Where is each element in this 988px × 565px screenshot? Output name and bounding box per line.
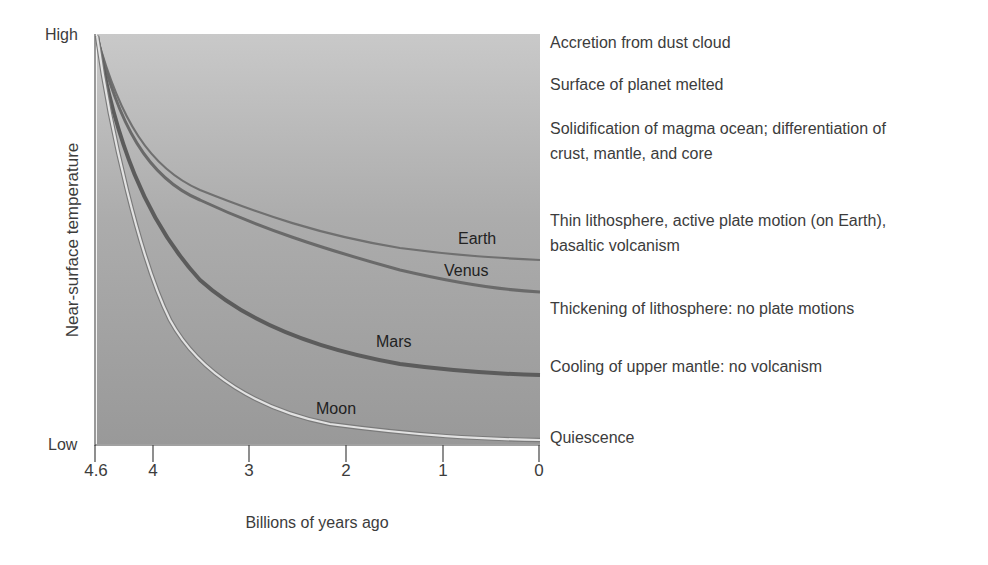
venus-label: Venus [444, 262, 488, 280]
moon-label: Moon [316, 400, 356, 418]
stage-solidification-line1: Solidification of magma ocean; different… [550, 116, 980, 141]
stage-thin-lithosphere-line1: Thin lithosphere, active plate motion (o… [550, 208, 980, 233]
stage-solidification: Solidification of magma ocean; different… [550, 116, 980, 166]
stage-cooling: Cooling of upper mantle: no volcanism [550, 354, 980, 379]
earth-label: Earth [458, 230, 496, 248]
mars-label: Mars [376, 333, 412, 351]
x-tick-4-6: 4.6 [84, 461, 108, 481]
x-tick-2: 2 [341, 461, 350, 481]
stage-thickening: Thickening of lithosphere: no plate moti… [550, 296, 980, 321]
y-high-label: High [45, 26, 78, 44]
stage-solidification-line2: crust, mantle, and core [550, 141, 980, 166]
stage-melted: Surface of planet melted [550, 72, 980, 97]
x-tick-0: 0 [534, 461, 543, 481]
x-tick-3: 3 [244, 461, 253, 481]
x-tick-1: 1 [438, 461, 447, 481]
stage-thin-lithosphere-line2: basaltic volcanism [550, 233, 980, 258]
stage-thin-lithosphere: Thin lithosphere, active plate motion (o… [550, 208, 980, 258]
stage-accretion: Accretion from dust cloud [550, 30, 980, 55]
x-tick-4: 4 [148, 461, 157, 481]
x-axis-ticks [95, 445, 539, 462]
y-low-label: Low [48, 436, 77, 454]
stage-quiescence: Quiescence [550, 425, 980, 450]
y-axis-title-text: Near-surface temperature [63, 143, 83, 338]
x-axis-title: Billions of years ago [245, 514, 388, 532]
